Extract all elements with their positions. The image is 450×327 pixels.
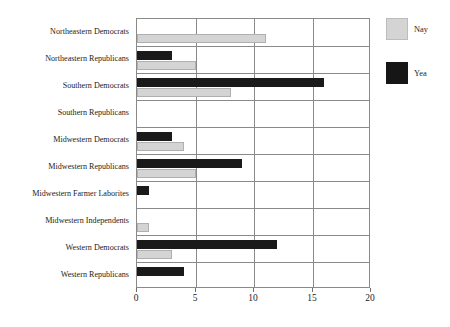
x-tick-mark	[370, 288, 371, 292]
grid-line-horizontal	[137, 46, 369, 47]
grid-line-horizontal	[137, 262, 369, 263]
category-label: Northeastern Republicans	[0, 54, 129, 63]
x-tick-mark	[195, 288, 196, 292]
x-tick-label: 20	[355, 293, 385, 303]
grid-line-horizontal	[137, 235, 369, 236]
legend-swatch-yea	[386, 62, 408, 84]
legend-item-nay: Nay	[386, 18, 448, 40]
x-tick-mark	[136, 288, 137, 292]
category-label: Southern Republicans	[0, 108, 129, 117]
bar-yea	[137, 78, 324, 87]
grid-line-horizontal	[137, 100, 369, 101]
x-axis: 05101520	[136, 288, 370, 310]
x-tick-label: 10	[238, 293, 268, 303]
bar-yea	[137, 186, 149, 195]
grid-line-vertical	[313, 19, 314, 287]
bar-nay	[137, 142, 184, 151]
category-label: Western Democrats	[0, 243, 129, 252]
bar-chart: Northeastern DemocratsNortheastern Repub…	[0, 0, 450, 327]
category-label: Midwestern Independents	[0, 216, 129, 225]
bar-nay	[137, 250, 172, 259]
category-label: Midwestern Democrats	[0, 135, 129, 144]
bar-nay	[137, 88, 231, 97]
bar-nay	[137, 34, 266, 43]
bar-yea	[137, 132, 172, 141]
grid-line-horizontal	[137, 181, 369, 182]
grid-line-horizontal	[137, 73, 369, 74]
grid-line-horizontal	[137, 154, 369, 155]
bar-yea	[137, 51, 172, 60]
bar-yea	[137, 240, 277, 249]
x-tick-label: 5	[180, 293, 210, 303]
x-tick-mark	[312, 288, 313, 292]
category-axis: Northeastern DemocratsNortheastern Repub…	[0, 18, 133, 288]
bar-yea	[137, 267, 184, 276]
bar-yea	[137, 159, 242, 168]
bar-nay	[137, 61, 196, 70]
grid-line-horizontal	[137, 127, 369, 128]
x-tick-label: 0	[121, 293, 151, 303]
legend-label: Nay	[414, 25, 428, 34]
legend-swatch-nay	[386, 18, 408, 40]
bar-nay	[137, 169, 196, 178]
category-label: Southern Democrats	[0, 81, 129, 90]
x-tick-mark	[253, 288, 254, 292]
bar-nay	[137, 223, 149, 232]
category-label: Midwestern Republicans	[0, 162, 129, 171]
category-label: Western Republicans	[0, 270, 129, 279]
category-label: Northeastern Democrats	[0, 27, 129, 36]
grid-line-horizontal	[137, 208, 369, 209]
category-label: Midwestern Farmer Laborites	[0, 189, 129, 198]
plot-area	[136, 18, 370, 288]
legend-label: Yea	[414, 69, 427, 78]
x-tick-label: 15	[297, 293, 327, 303]
legend-item-yea: Yea	[386, 62, 448, 84]
